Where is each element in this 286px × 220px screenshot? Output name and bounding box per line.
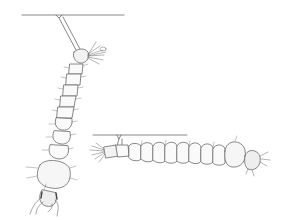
- anal-brush: [88, 42, 106, 64]
- thorax: [37, 160, 70, 188]
- abdominal-segments: [129, 142, 225, 165]
- thorax: [225, 142, 246, 167]
- mosquito-larvae-illustration: [0, 0, 286, 220]
- abdominal-segments: [49, 64, 83, 159]
- larva-vertical: [22, 15, 124, 216]
- siphon-tube: [59, 17, 80, 50]
- anal-brush: [90, 143, 105, 162]
- larva-horizontal: [90, 135, 270, 176]
- head: [245, 150, 261, 169]
